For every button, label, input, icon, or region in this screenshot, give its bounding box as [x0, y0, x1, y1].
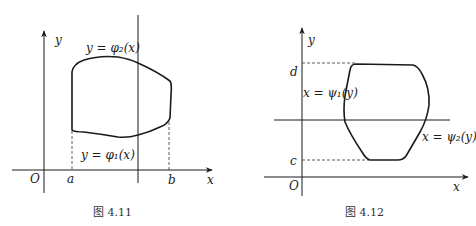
- diagrams-canvas: O a b x y y = φ₂(x) y = φ₁(x) 图 4.11 O x…: [0, 0, 476, 226]
- figure-4-12: O x y d c x = ψ₁(y) x = ψ₂(y) 图 4.12: [264, 28, 476, 219]
- y-axis-label: y: [307, 33, 315, 47]
- bound-a-label: a: [67, 172, 74, 186]
- upper-curve-label: y = φ₂(x): [85, 41, 140, 55]
- figure-caption: 图 4.11: [93, 206, 132, 219]
- bound-c-label: c: [290, 154, 297, 168]
- region-boundary-curve: [344, 64, 429, 160]
- origin-label: O: [289, 179, 299, 193]
- x-axis-label: x: [207, 173, 214, 187]
- figure-4-11: O a b x y y = φ₂(x) y = φ₁(x) 图 4.11: [12, 15, 214, 219]
- left-curve-label: x = ψ₁(y): [303, 86, 358, 100]
- lower-curve-label: y = φ₁(x): [80, 148, 135, 162]
- right-curve-label: x = ψ₂(y): [422, 130, 476, 144]
- x-axis-label: x: [453, 180, 460, 194]
- bound-d-label: d: [290, 65, 298, 79]
- origin-label: O: [30, 172, 40, 186]
- figure-caption: 图 4.12: [345, 206, 384, 219]
- y-axis-label: y: [54, 33, 62, 47]
- bound-b-label: b: [168, 173, 176, 187]
- region-boundary-curve: [72, 56, 171, 137]
